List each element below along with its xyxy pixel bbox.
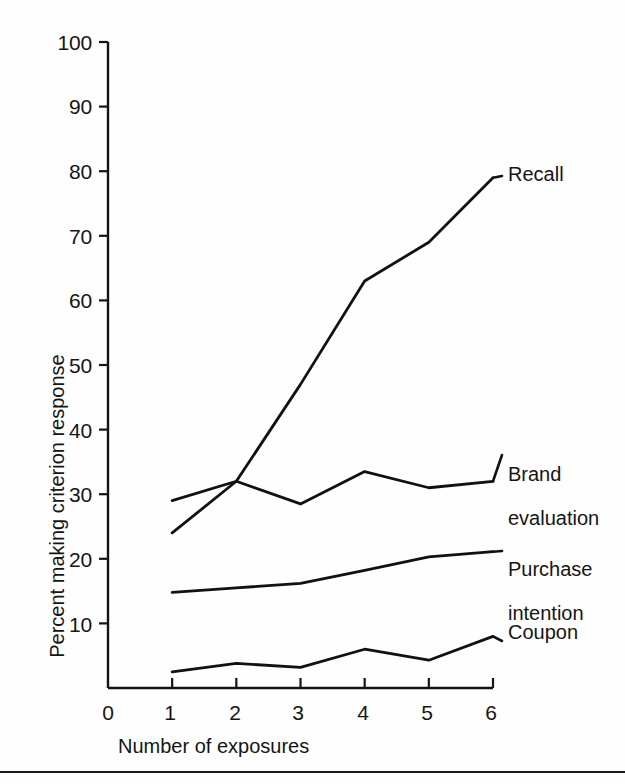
leader-purchase-intention xyxy=(493,551,502,552)
x-tick-label-4: 4 xyxy=(348,702,378,723)
chart-plot-area xyxy=(0,0,625,784)
leader-coupon xyxy=(493,636,502,641)
series-line-recall xyxy=(172,178,493,533)
series-label-coupon: Coupon xyxy=(508,621,578,643)
x-tick-label-2: 2 xyxy=(220,702,250,723)
x-tick-label-1: 1 xyxy=(155,702,185,723)
footer-rule xyxy=(0,771,625,773)
series-line-coupon xyxy=(172,636,493,672)
y-tick-label-80: 80 xyxy=(46,161,92,182)
x-axis-title: Number of exposures xyxy=(118,735,309,757)
y-axis-ticks xyxy=(99,42,108,623)
chart-series-group xyxy=(172,178,493,672)
series-line-purchase-intention xyxy=(172,552,493,593)
leader-brand-evaluation xyxy=(493,455,502,481)
x-tick-label-5: 5 xyxy=(412,702,442,723)
x-tick-label-6: 6 xyxy=(476,702,506,723)
y-tick-label-70: 70 xyxy=(46,226,92,247)
series-label-recall: Recall xyxy=(508,163,564,185)
series-label-brand-evaluation: Brand evaluation xyxy=(508,441,599,529)
x-axis-ticks xyxy=(172,678,493,688)
figure-container: 100 90 80 70 60 50 40 30 20 10 0 1 2 3 4… xyxy=(0,0,625,784)
series-label-purchase-intention: Purchase intention xyxy=(508,536,593,624)
x-tick-label-3: 3 xyxy=(283,702,313,723)
series-label-brand-evaluation-line1: Brand xyxy=(508,463,561,485)
y-axis-title: Percent making criterion response xyxy=(46,306,68,706)
y-tick-label-100: 100 xyxy=(46,32,92,53)
series-label-brand-evaluation-line2: evaluation xyxy=(508,507,599,529)
series-label-purchase-intention-line1: Purchase xyxy=(508,558,593,580)
y-tick-label-90: 90 xyxy=(46,96,92,117)
series-line-brand-evaluation xyxy=(172,472,493,504)
x-tick-label-0: 0 xyxy=(93,702,123,723)
series-leader-lines xyxy=(493,176,502,641)
leader-recall xyxy=(493,176,502,178)
